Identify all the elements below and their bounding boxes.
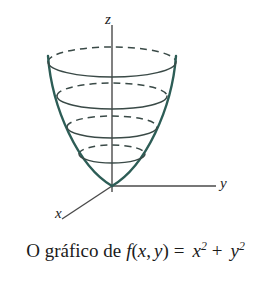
y-axis-label: y	[220, 176, 227, 191]
caption-equals: =	[174, 240, 185, 261]
z-axis-label: z	[105, 12, 111, 27]
x-axis-label: x	[55, 206, 62, 221]
figure-caption: O gráfico def(x,y)=x2+y2	[0, 240, 271, 262]
caption-plus: +	[212, 240, 223, 261]
paraboloid-plot: z y x	[0, 0, 271, 236]
caption-comma: ,	[146, 240, 151, 261]
figure-container: z y x O gráfico def(x,y)=x2+y2	[0, 0, 271, 281]
axes-group	[62, 25, 216, 219]
caption-term1-base: x	[192, 240, 200, 261]
caption-close-paren: )	[162, 240, 168, 261]
caption-term2-exponent: 2	[239, 240, 245, 253]
paraboloid-svg	[0, 0, 271, 236]
caption-arg1: x	[138, 240, 146, 261]
caption-term2-base: y	[230, 240, 238, 261]
caption-term1-exponent: 2	[201, 240, 207, 253]
x-axis-line	[62, 186, 112, 219]
caption-prefix: O gráfico de	[26, 240, 121, 261]
